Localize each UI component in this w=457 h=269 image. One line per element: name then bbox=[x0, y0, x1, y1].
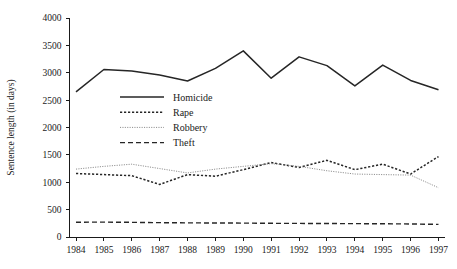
y-tick-label: 4000 bbox=[43, 13, 62, 23]
series-layer bbox=[76, 51, 439, 225]
x-tick-label: 1996 bbox=[401, 245, 420, 255]
x-tick-label: 1988 bbox=[178, 245, 197, 255]
x-axis-ticks bbox=[76, 237, 439, 241]
legend-label-homicide: Homicide bbox=[173, 92, 213, 103]
legend-label-robbery: Robbery bbox=[173, 122, 207, 133]
chart-canvas: 05001000150020002500300035004000 Sentenc… bbox=[0, 0, 457, 269]
x-tick-label: 1985 bbox=[94, 245, 113, 255]
series-line-theft bbox=[76, 222, 439, 224]
x-tick-label: 1995 bbox=[373, 245, 392, 255]
line-chart: 05001000150020002500300035004000 Sentenc… bbox=[0, 0, 457, 269]
x-tick-label: 1991 bbox=[262, 245, 281, 255]
x-tick-label: 1986 bbox=[122, 245, 141, 255]
x-tick-label: 1990 bbox=[234, 245, 253, 255]
y-tick-label: 500 bbox=[47, 205, 62, 215]
series-line-homicide bbox=[76, 51, 439, 92]
x-axis: 1984198519861987198819891990199119921993… bbox=[67, 237, 449, 255]
legend-label-rape: Rape bbox=[173, 107, 194, 118]
x-tick-label: 1989 bbox=[206, 245, 225, 255]
x-tick-label: 1987 bbox=[150, 245, 169, 255]
legend-label-theft: Theft bbox=[173, 137, 195, 148]
y-axis-ticks bbox=[66, 18, 70, 237]
y-tick-label: 3500 bbox=[43, 41, 62, 51]
series-line-rape bbox=[76, 157, 439, 185]
y-axis-tick-labels: 05001000150020002500300035004000 bbox=[43, 13, 62, 242]
y-axis-title: Sentence length (in days) bbox=[6, 79, 17, 175]
y-tick-label: 1500 bbox=[43, 150, 62, 160]
y-tick-label: 3000 bbox=[43, 68, 62, 78]
y-axis: 05001000150020002500300035004000 Sentenc… bbox=[6, 13, 70, 242]
x-tick-label: 1994 bbox=[345, 245, 364, 255]
x-tick-label: 1997 bbox=[429, 245, 448, 255]
chart-legend: HomicideRapeRobberyTheft bbox=[120, 92, 213, 149]
y-tick-label: 1000 bbox=[43, 178, 62, 188]
x-tick-label: 1992 bbox=[290, 245, 309, 255]
x-axis-tick-labels: 1984198519861987198819891990199119921993… bbox=[67, 245, 449, 255]
y-tick-label: 2500 bbox=[43, 96, 62, 106]
y-tick-label: 0 bbox=[57, 232, 62, 242]
y-tick-label: 2000 bbox=[43, 123, 62, 133]
x-tick-label: 1993 bbox=[317, 245, 336, 255]
x-tick-label: 1984 bbox=[67, 245, 86, 255]
series-line-robbery bbox=[76, 164, 439, 188]
